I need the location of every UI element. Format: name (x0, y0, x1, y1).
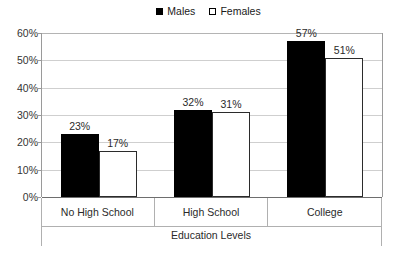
legend-label-males: Males (167, 6, 195, 17)
legend-entry-males: Males (156, 6, 195, 17)
filled-square-icon (156, 8, 163, 15)
bar-value-label: 23% (55, 121, 105, 132)
category-label-no-high-school: No High School (41, 198, 155, 226)
y-tick-label: 60% (2, 28, 38, 39)
category-label-high-school: High School (155, 198, 269, 226)
category-label-college: College (268, 198, 381, 226)
y-tick-label: 30% (2, 110, 38, 121)
y-tick-label: 10% (2, 165, 38, 176)
bar-value-label: 31% (206, 99, 256, 110)
bar-value-label: 17% (93, 138, 143, 149)
chart-legend: Males Females (0, 2, 417, 20)
bar-value-label: 57% (281, 28, 331, 39)
bar-chart: Males Females 0%10%20%30%40%50%60% 23%17… (0, 0, 417, 255)
y-tick-label: 0% (2, 192, 38, 203)
bar-males-college (287, 41, 325, 197)
category-axis-right-edge (381, 198, 382, 246)
category-axis: No High SchoolHigh SchoolCollege (41, 198, 381, 226)
category-axis-bottom-border (41, 226, 381, 227)
bar-value-label: 51% (319, 45, 369, 56)
bar-females-college (325, 58, 363, 197)
y-tick-label: 20% (2, 137, 38, 148)
bar-males-high-school (174, 110, 212, 197)
legend-entry-females: Females (209, 6, 260, 17)
bar-females-no-high-school (99, 151, 137, 197)
y-tick-label: 40% (2, 83, 38, 94)
y-axis: 0%10%20%30%40%50%60% (0, 0, 38, 255)
legend-label-females: Females (220, 6, 260, 17)
y-tick-label: 50% (2, 55, 38, 66)
hollow-square-icon (209, 8, 216, 15)
bar-females-high-school (212, 112, 250, 197)
plot-area: 23%17%32%31%57%51% (41, 33, 383, 197)
x-axis-title: Education Levels (41, 230, 381, 241)
